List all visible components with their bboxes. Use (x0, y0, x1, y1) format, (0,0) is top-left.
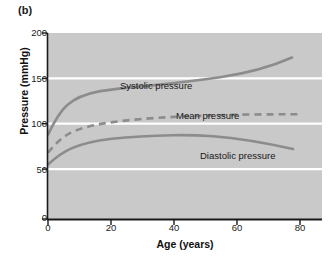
figure-panel-b: (b) Pressure (mmHg) Age (years) 200 150 … (0, 0, 334, 260)
axes-overlay (0, 0, 334, 260)
